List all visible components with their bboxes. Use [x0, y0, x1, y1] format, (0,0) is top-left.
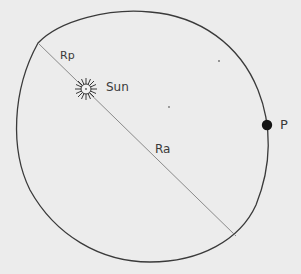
major-axis-line	[38, 43, 236, 236]
planet-label: P	[280, 118, 288, 131]
paper-speck	[218, 60, 220, 62]
sun-label: Sun	[106, 81, 129, 93]
paper-speck	[168, 106, 170, 108]
planet-dot	[262, 120, 272, 130]
sun-icon	[75, 78, 97, 100]
perihelion-distance-label: Rp	[60, 50, 75, 61]
orbit-ellipse	[17, 11, 269, 262]
orbit-drawing	[0, 0, 301, 274]
aphelion-distance-label: Ra	[155, 143, 170, 155]
orbit-diagram: Rp Sun Ra P	[0, 0, 301, 274]
